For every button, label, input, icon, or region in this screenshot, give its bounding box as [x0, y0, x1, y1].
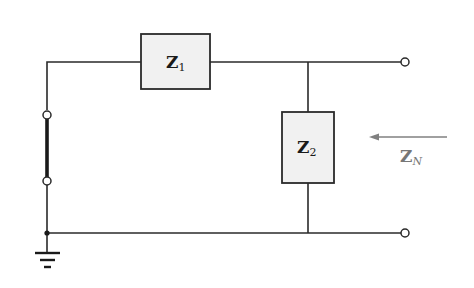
label-zn: ZN — [400, 148, 422, 167]
label-z1: Z1 — [166, 54, 185, 73]
label-zn-main: Z — [400, 146, 412, 166]
short-terminal-bottom — [43, 177, 51, 185]
label-z2-sub: 2 — [309, 146, 316, 159]
terminal-out-top — [401, 58, 409, 66]
label-zn-sub: N — [412, 155, 422, 168]
ground-icon — [35, 253, 60, 267]
wires — [47, 62, 401, 252]
circuit-diagram — [0, 0, 474, 288]
arrow-left-icon — [369, 134, 447, 141]
label-z1-sub: 1 — [178, 61, 185, 74]
label-z2: Z2 — [297, 139, 316, 158]
label-z2-main: Z — [297, 137, 309, 157]
label-z1-main: Z — [166, 52, 178, 72]
wire-top-left — [47, 62, 141, 110]
junction-dot — [44, 230, 49, 235]
short-terminal-top — [43, 111, 51, 119]
terminal-out-bottom — [401, 229, 409, 237]
